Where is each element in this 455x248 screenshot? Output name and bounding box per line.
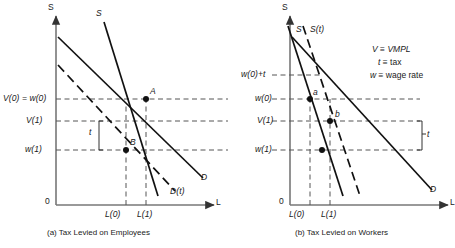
panel-a-ytick-1: V(1) (26, 115, 42, 125)
legend-relation-2: ≡ (379, 70, 384, 80)
panel-a-axes (56, 16, 214, 205)
panel-b-supply-shifted-label: S(t) (310, 24, 324, 34)
panel-a-ytick-0: V(0) = w(0) (3, 93, 46, 103)
legend-symbol-v: V (372, 44, 378, 54)
panel-a-demand-shifted-label: D(t) (170, 186, 185, 196)
panel-b-caption: (b) Tax Levied on Workers (295, 228, 388, 237)
legend-line-wage: w ≡ wage rate (370, 70, 423, 80)
panel-a-caption: (a) Tax Levied on Employees (47, 228, 150, 237)
figure-canvas: S L 0 S D D(t) A B t V(0) = w(0) V(1) w(… (0, 0, 455, 248)
panel-a-tax-bracket (99, 121, 103, 150)
panel-b-axis-x-label: L (450, 197, 455, 207)
panel-a-point-B (123, 147, 129, 153)
panel-a-ytick-2: w(1) (25, 144, 42, 154)
figure-svg (0, 0, 455, 248)
panel-b-curve-demand (292, 37, 432, 190)
panel-b-origin-label: 0 (279, 196, 284, 206)
panel-a-guides (56, 99, 228, 205)
legend-definition-wage: wage rate (386, 70, 423, 80)
panel-a-point-label-A: A (150, 86, 156, 96)
panel-b-supply-label: S (296, 24, 302, 34)
panel-b-demand-label: D (430, 184, 436, 194)
panel-b-ytick-1: w(0) (255, 93, 272, 103)
panel-a-point-label-B: B (130, 137, 136, 147)
panel-b-tax-bracket (417, 121, 426, 150)
legend-symbol-w: w (370, 70, 376, 80)
panel-a-xtick-1: L(1) (137, 209, 153, 219)
legend-symbol-t: t (378, 57, 380, 67)
legend-line-tax: t ≡ tax (378, 57, 401, 67)
panel-b-axis-y-label: S (282, 2, 288, 12)
panel-b-xtick-1: L(1) (321, 209, 337, 219)
panel-b-ytick-2: V(1) (257, 115, 273, 125)
panel-b-ytick-0: w(0)+t (241, 69, 265, 79)
panel-b-xtick-0: L(0) (289, 209, 305, 219)
legend-definition-vmpl: VMPL (387, 44, 410, 54)
panel-b-bracket-label: t (427, 129, 429, 139)
panel-b-point-b (327, 118, 333, 124)
panel-b-axes (290, 16, 448, 205)
panel-b-point-label-b: b (335, 109, 340, 119)
panel-a-point-A (143, 96, 149, 102)
legend-relation-0: ≡ (380, 44, 385, 54)
panel-a-curve-demand-shifted (58, 65, 175, 191)
panel-a-demand-label: D (201, 172, 207, 182)
legend-definition-tax: tax (390, 57, 401, 67)
panel-a-origin-label: 0 (45, 196, 50, 206)
panel-a-xtick-0: L(0) (105, 209, 121, 219)
legend-relation-1: ≡ (383, 57, 388, 67)
panel-b-guides (272, 75, 420, 205)
legend-line-vmpl: V ≡ VMPL (372, 44, 411, 54)
panel-a-axis-x-label: L (216, 197, 221, 207)
panel-b-point-lower (319, 147, 325, 153)
panel-a-axis-y-label: S (48, 2, 54, 12)
panel-b-ytick-3: w(1) (255, 144, 272, 154)
panel-a-supply-label: S (96, 8, 102, 18)
panel-a-bracket-label: t (89, 127, 91, 137)
panel-b-curve-supply-shifted (303, 26, 360, 196)
panel-a-curve-supply (104, 22, 158, 196)
panel-b-point-label-a: a (313, 87, 318, 97)
